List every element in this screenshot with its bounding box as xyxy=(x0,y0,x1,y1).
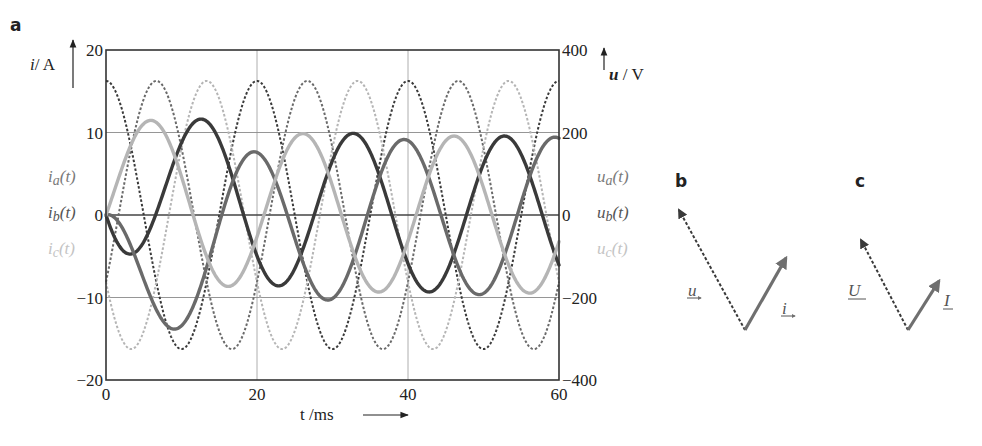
phasor-U-dashed xyxy=(861,240,908,330)
x-tick: 60 xyxy=(551,385,568,404)
phasor-i-solid xyxy=(745,258,786,330)
x-tick: 0 xyxy=(102,385,111,404)
y-axis-left-title: i/ A xyxy=(30,55,56,74)
series-label-ub: ub(t) xyxy=(597,203,629,224)
panel-label-b: b xyxy=(675,171,687,191)
phasor-u-dashed xyxy=(679,210,745,330)
chart-panel-a: i/ A u / V −20−1001020−400−2000200400020… xyxy=(30,40,644,424)
panel-label-a: a xyxy=(10,15,21,35)
y-tick-left: 10 xyxy=(86,124,103,143)
y-tick-left: 0 xyxy=(95,206,104,225)
series-label-ia: ia(t) xyxy=(48,167,76,188)
series-label-ib: ib(t) xyxy=(48,203,76,224)
y-tick-right: −200 xyxy=(562,289,597,308)
phasor-panel-b: u i xyxy=(679,210,795,330)
x-axis-title: t /ms xyxy=(300,405,334,424)
y-tick-left: −20 xyxy=(76,371,103,390)
phasor-label-u: u xyxy=(688,281,697,300)
y-axis-right-title: u / V xyxy=(609,65,644,84)
series-label-ua: ua(t) xyxy=(597,167,629,188)
y-tick-right: 200 xyxy=(562,124,588,143)
phasor-label-i: i xyxy=(782,299,787,318)
phasor-label-U: U xyxy=(848,281,862,300)
y-tick-left: 20 xyxy=(86,41,103,60)
y-tick-left: −10 xyxy=(76,289,103,308)
panel-label-c: c xyxy=(855,171,865,191)
phasor-I-solid xyxy=(908,281,939,330)
series-label-ic: ic(t) xyxy=(48,239,75,260)
x-tick: 40 xyxy=(400,385,417,404)
y-tick-right: 0 xyxy=(562,206,571,225)
phasor-panel-c: U I xyxy=(848,240,953,330)
series-label-uc: uc(t) xyxy=(597,239,628,260)
y-tick-right: 400 xyxy=(562,41,588,60)
figure: a b c i/ A u / V −20−1001020−400−2000200… xyxy=(0,0,982,446)
phasor-label-I: I xyxy=(943,291,951,310)
x-tick: 20 xyxy=(249,385,266,404)
